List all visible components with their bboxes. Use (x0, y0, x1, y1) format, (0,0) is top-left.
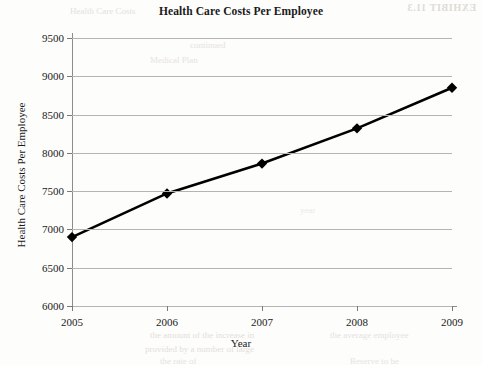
y-axis-tick (67, 229, 72, 230)
y-axis-tick (67, 153, 72, 154)
x-axis-tick-label: 2006 (156, 316, 178, 328)
gridline (72, 268, 452, 269)
x-axis-tick (262, 306, 263, 311)
data-point-marker (162, 188, 172, 198)
x-axis-tick-label: 2009 (441, 316, 463, 328)
x-axis-tick (452, 306, 453, 311)
gridline (72, 115, 452, 116)
gridline (72, 191, 452, 192)
y-axis-tick-label: 6500 (42, 262, 64, 274)
y-axis-tick-label: 7500 (42, 185, 64, 197)
y-axis-tick (67, 115, 72, 116)
x-axis-tick-label: 2005 (61, 316, 83, 328)
gridline (72, 38, 452, 39)
x-axis-title: Year (0, 337, 482, 349)
data-point-marker (67, 232, 77, 242)
chart-page: EXHIBIT 11.3 Health Care Costs continued… (0, 0, 482, 365)
data-point-marker (352, 123, 362, 133)
y-axis-tick-label: 8500 (42, 109, 64, 121)
data-point-marker (257, 158, 267, 168)
gridline (72, 153, 452, 154)
x-axis-tick (72, 306, 73, 311)
x-axis-tick (167, 306, 168, 311)
series-markers (67, 83, 457, 243)
x-axis-tick (357, 306, 358, 311)
x-axis-tick-label: 2008 (346, 316, 368, 328)
y-axis-title: Health Care Costs Per Employee (14, 50, 28, 300)
series-line-chart (72, 38, 452, 306)
y-axis-tick-label: 7000 (42, 223, 64, 235)
y-axis-title-text: Health Care Costs Per Employee (15, 103, 27, 248)
y-axis-tick-label: 6000 (42, 300, 64, 312)
data-point-marker (447, 83, 457, 93)
y-axis-tick (67, 191, 72, 192)
y-axis-tick (67, 268, 72, 269)
plot-area: 6000650070007500800085009000950020052006… (72, 38, 452, 306)
y-axis-tick-label: 8000 (42, 147, 64, 159)
bleed-through-text: Reserve to be (350, 356, 399, 365)
bleed-through-text: the rate of (160, 356, 196, 365)
x-axis-tick-label: 2007 (251, 316, 273, 328)
y-axis-tick-label: 9500 (42, 32, 64, 44)
gridline (72, 229, 452, 230)
gridline (72, 76, 452, 77)
y-axis-tick (67, 76, 72, 77)
chart-title: Health Care Costs Per Employee (0, 5, 482, 17)
y-axis-tick (67, 38, 72, 39)
y-axis-tick-label: 9000 (42, 70, 64, 82)
